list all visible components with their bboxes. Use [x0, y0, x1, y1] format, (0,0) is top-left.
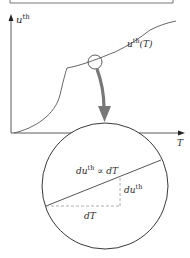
relation-label: duth ∝ dT: [76, 164, 119, 176]
x-axis-label: T: [177, 138, 184, 148]
zoom-arrow-head-icon: [98, 106, 111, 122]
zoom-arrow-shaft: [97, 69, 104, 108]
thermal-strain-diagram: uth T uth(T) duth ∝ dT duth dT: [0, 0, 190, 258]
run-label: dT: [84, 211, 97, 221]
top-frame-border: [10, 0, 173, 3]
curve-label: uth(T): [127, 37, 153, 49]
y-axis-label: uth: [16, 13, 30, 25]
uth-curve: [14, 21, 176, 133]
magnify-spot-circle: [88, 55, 102, 69]
y-axis-arrowhead-icon: [9, 14, 14, 21]
zoom-detail-circle: [42, 123, 168, 249]
x-axis-arrowhead-icon: [178, 131, 185, 136]
